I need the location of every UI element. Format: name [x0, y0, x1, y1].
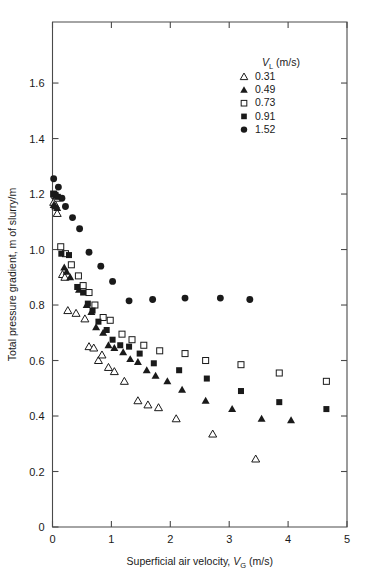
data-point: [152, 372, 160, 379]
legend-marker-0-73: [241, 100, 247, 106]
data-point: [137, 351, 143, 357]
data-point: [134, 358, 142, 365]
data-point: [258, 415, 266, 422]
data-point: [117, 342, 123, 348]
data-point: [80, 290, 86, 296]
data-point: [182, 351, 188, 357]
series-0-49: [50, 201, 295, 423]
data-point: [75, 273, 81, 279]
x-tick-label: 1: [108, 533, 114, 545]
data-point: [172, 415, 180, 422]
y-tick-label: 0.8: [29, 299, 44, 311]
data-point: [178, 386, 186, 393]
data-point: [104, 327, 110, 333]
x-tick-label: 2: [167, 533, 173, 545]
legend-marker-0-49: [240, 86, 248, 93]
plot-frame: [53, 22, 348, 527]
data-point: [323, 378, 329, 384]
series-0-31: [50, 198, 260, 462]
data-point: [120, 377, 128, 384]
data-point: [182, 295, 189, 302]
y-tick-label: 1.4: [29, 133, 44, 145]
data-point: [134, 397, 142, 404]
data-point: [203, 358, 209, 364]
data-point: [95, 319, 101, 325]
series-0-73: [51, 191, 330, 384]
data-point: [90, 308, 96, 314]
chart-figure: 01234500.20.40.60.81.01.21.41.6Superfici…: [0, 0, 372, 584]
data-point: [126, 344, 132, 350]
data-point: [74, 284, 80, 290]
legend-title: VL (m/s): [262, 56, 300, 71]
data-point: [76, 225, 83, 232]
y-axis-title: Total pressure gradient, m of slurry/m: [6, 188, 18, 362]
data-point: [287, 416, 295, 423]
data-point: [72, 309, 80, 316]
data-point: [97, 263, 104, 270]
data-point: [62, 203, 69, 210]
legend: VL (m/s)0.310.490.730.911.52: [240, 56, 300, 135]
scatter-plot: 01234500.20.40.60.81.01.21.41.6Superfici…: [0, 0, 372, 584]
data-point: [204, 376, 210, 382]
legend-label-0-49: 0.49: [255, 83, 276, 95]
data-point: [50, 175, 57, 182]
legend-marker-0-91: [241, 114, 247, 120]
legend-marker-1-52: [241, 126, 247, 132]
data-point: [202, 397, 210, 404]
y-tick-label: 0: [38, 521, 44, 533]
data-point: [58, 244, 64, 250]
y-tick-label: 1.6: [29, 77, 44, 89]
data-point: [149, 296, 156, 303]
data-point: [86, 249, 93, 256]
data-point: [58, 195, 65, 202]
y-tick-label: 0.6: [29, 355, 44, 367]
y-tick-label: 0.2: [29, 466, 44, 478]
x-tick-label: 0: [49, 533, 55, 545]
data-point: [69, 214, 76, 221]
legend-marker-0-31: [240, 73, 248, 80]
data-point: [86, 290, 92, 296]
x-tick-label: 5: [344, 533, 350, 545]
x-axis-title: Superficial air velocity, VG (m/s): [127, 555, 273, 570]
data-point: [144, 401, 152, 408]
data-point: [323, 406, 329, 412]
data-point: [228, 405, 236, 412]
data-point: [151, 360, 157, 366]
data-point: [126, 297, 133, 304]
data-point: [217, 295, 224, 302]
x-tick-label: 4: [285, 533, 291, 545]
legend-label-0-31: 0.31: [255, 70, 276, 82]
legend-label-0-73: 0.73: [255, 96, 276, 108]
data-point: [109, 278, 116, 285]
data-point: [209, 430, 217, 437]
data-point: [58, 251, 64, 257]
data-point: [129, 337, 135, 343]
data-point: [126, 355, 134, 362]
data-point: [64, 307, 72, 314]
data-point: [104, 363, 112, 370]
data-point: [176, 367, 182, 373]
y-tick-label: 1.0: [29, 244, 44, 256]
data-point: [68, 262, 74, 268]
data-point: [81, 315, 89, 322]
y-tick-label: 1.2: [29, 188, 44, 200]
data-point: [238, 362, 244, 368]
data-point: [66, 252, 72, 258]
y-tick-label: 0.4: [29, 410, 44, 422]
data-point: [119, 348, 127, 355]
data-point: [110, 337, 116, 343]
data-point: [157, 348, 163, 354]
data-point: [141, 342, 147, 348]
legend-label-0-91: 0.91: [255, 110, 276, 122]
data-point: [85, 301, 91, 307]
data-point: [98, 351, 106, 358]
data-point: [92, 302, 98, 308]
legend-label-1-52: 1.52: [255, 123, 276, 135]
data-point: [276, 370, 282, 376]
data-point: [55, 184, 62, 191]
data-point: [252, 455, 260, 462]
data-point: [119, 331, 125, 337]
data-point: [143, 366, 151, 373]
data-point: [276, 399, 282, 405]
data-point: [107, 317, 113, 323]
